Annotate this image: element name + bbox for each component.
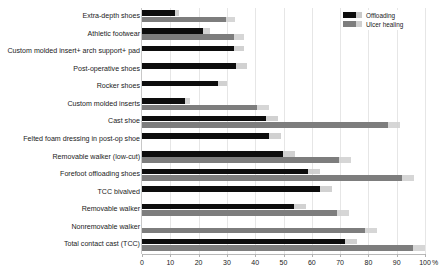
legend-label-offloading: Offloading <box>366 12 395 19</box>
bar-offloading <box>142 133 269 139</box>
x-axis-tick-label: 70 <box>327 259 353 266</box>
chart-row: Felted foam dressing in post-op shoe <box>0 131 444 149</box>
bar-offloading <box>142 98 185 104</box>
bar-offloading <box>142 10 175 16</box>
bar-offloading <box>142 239 345 245</box>
bar-offloading <box>142 186 320 192</box>
bar-end-cap <box>402 175 414 181</box>
bar-group <box>142 149 425 167</box>
category-label: Custom molded insert+ arch support+ pad <box>8 43 141 61</box>
chart-row: Custom molded insert+ arch support+ pad <box>0 43 444 61</box>
bar-end-cap <box>203 28 210 34</box>
legend-item-offloading: Offloading <box>343 11 403 19</box>
bar-group <box>142 219 425 237</box>
chart-row: Total contact cast (TCC) <box>0 236 444 254</box>
x-axis-tick <box>199 254 200 257</box>
legend-swatch-ulcer-healing <box>343 21 362 27</box>
bar-group <box>142 201 425 219</box>
category-label: Athletic footwear <box>88 26 140 44</box>
bar-end-cap <box>339 157 351 163</box>
bar-end-cap <box>365 228 377 234</box>
bar-end-cap <box>236 63 246 69</box>
bar-group <box>142 78 425 96</box>
chart-row: Nonremovable walker <box>0 219 444 237</box>
bar-group <box>142 236 425 254</box>
x-axis-tick <box>255 254 256 257</box>
bar-group <box>142 131 425 149</box>
bar-chart: Extra-depth shoesAthletic footwearCustom… <box>0 0 444 277</box>
x-axis-tick <box>227 254 228 257</box>
bar-end-cap <box>257 105 269 111</box>
bar-end-cap <box>294 204 306 210</box>
bar-ulcer-healing <box>142 228 365 234</box>
bar-ulcer-healing <box>142 157 339 163</box>
bar-end-cap <box>234 34 244 40</box>
bar-end-cap <box>413 245 425 251</box>
x-axis-tick-label: 0 <box>129 259 155 266</box>
bar-offloading <box>142 169 308 175</box>
bar-offloading <box>142 151 283 157</box>
bar-end-cap <box>269 133 281 139</box>
x-axis-tick <box>312 254 313 257</box>
legend-item-ulcer-healing: Ulcer healing <box>343 20 403 28</box>
bar-ulcer-healing <box>142 245 413 251</box>
bar-group <box>142 113 425 131</box>
bar-end-cap <box>283 151 295 157</box>
bar-group <box>142 184 425 202</box>
bar-ulcer-healing <box>142 105 257 111</box>
chart-row: Removable walker (low-cut) <box>0 149 444 167</box>
bar-offloading <box>142 81 218 87</box>
x-axis-tick <box>170 254 171 257</box>
category-label: Custom molded inserts <box>67 96 140 114</box>
category-label: Post-operative shoes <box>73 61 140 79</box>
x-axis-tick-label: 80 <box>355 259 381 266</box>
category-label: TCC bivalved <box>97 184 140 202</box>
bar-end-cap <box>320 186 332 192</box>
category-label: Nonremovable walker <box>71 219 140 237</box>
bar-end-cap <box>175 10 179 16</box>
bar-end-cap <box>185 98 190 104</box>
x-axis-tick-label: 10 <box>157 259 183 266</box>
bar-end-cap <box>337 210 349 216</box>
x-axis-tick-label: 60 <box>299 259 325 266</box>
bar-group <box>142 96 425 114</box>
chart-row: Post-operative shoes <box>0 61 444 79</box>
x-axis-tick <box>368 254 369 257</box>
category-label: Extra-depth shoes <box>82 8 140 26</box>
bar-end-cap <box>226 17 235 23</box>
category-label: Removable walker (low-cut) <box>52 149 140 167</box>
chart-row: TCC bivalved <box>0 184 444 202</box>
x-axis-tick-label: 20 <box>186 259 212 266</box>
bar-group <box>142 61 425 79</box>
category-label: Removable walker <box>82 201 140 219</box>
bar-group <box>142 43 425 61</box>
x-axis-tick <box>142 254 143 257</box>
bar-end-cap <box>388 122 400 128</box>
category-label: Cast shoe <box>108 113 140 131</box>
category-label: Forefoot offloading shoes <box>60 166 140 184</box>
bar-end-cap <box>345 239 357 245</box>
chart-row: Forefoot offloading shoes <box>0 166 444 184</box>
x-axis-tick-label: 40 <box>242 259 268 266</box>
bar-end-cap <box>308 169 320 175</box>
bar-ulcer-healing <box>142 122 388 128</box>
category-label: Total contact cast (TCC) <box>64 236 140 254</box>
bar-end-cap <box>218 81 226 87</box>
bar-offloading <box>142 116 266 122</box>
bar-ulcer-healing <box>142 34 234 40</box>
bar-ulcer-healing <box>142 175 402 181</box>
x-axis-tick-label: 50 <box>271 259 297 266</box>
chart-row: Rocker shoes <box>0 78 444 96</box>
category-label: Felted foam dressing in post-op shoe <box>23 131 140 149</box>
legend-label-ulcer-healing: Ulcer healing <box>366 21 403 28</box>
category-label: Rocker shoes <box>97 78 140 96</box>
bar-group <box>142 166 425 184</box>
chart-row: Custom molded inserts <box>0 96 444 114</box>
legend-swatch-offloading <box>343 12 362 18</box>
bar-offloading <box>142 63 236 69</box>
bar-ulcer-healing <box>142 210 337 216</box>
bar-offloading <box>142 204 294 210</box>
legend: Offloading Ulcer healing <box>341 10 405 30</box>
x-axis-tick <box>397 254 398 257</box>
x-axis-unit: % <box>432 259 438 266</box>
